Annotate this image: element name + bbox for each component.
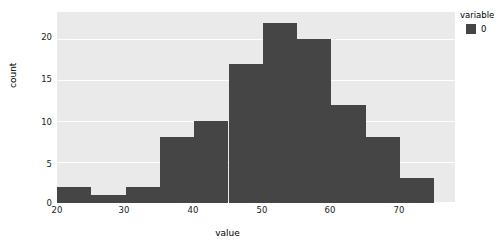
bar-bin-50-55: [263, 23, 297, 203]
bar-bin-70-75: [400, 178, 434, 203]
legend-title: variable: [460, 10, 500, 20]
x-tick-label-60: 60: [318, 205, 342, 215]
bar-bin-40-45: [194, 121, 228, 203]
y-tick-label-5: 5: [30, 159, 52, 169]
x-tick-label-50: 50: [250, 205, 274, 215]
bar-bin-20-25: [57, 187, 91, 203]
bar-bin-65-70: [366, 137, 400, 203]
y-tick-label-20: 20: [30, 32, 52, 42]
legend-swatch-icon: [466, 24, 476, 34]
x-tick-label-40: 40: [181, 205, 205, 215]
histogram-figure: count 0 5 10 15 20 20 30 40 50 60 70 val…: [0, 0, 500, 250]
bar-bin-55-60: [297, 39, 331, 203]
y-tick-label-15: 15: [30, 74, 52, 84]
bar-bin-30-35: [126, 187, 160, 203]
bar-bin-45-50: [229, 64, 263, 203]
legend-item-0[interactable]: 0: [460, 24, 500, 34]
bar-bin-35-40: [160, 137, 194, 203]
bar-bin-25-30: [91, 195, 125, 203]
legend: variable 0: [460, 10, 500, 34]
legend-item-label: 0: [481, 24, 486, 34]
x-tick-label-20: 20: [45, 205, 69, 215]
plot-panel: [57, 12, 455, 203]
gridline-y-20: [57, 39, 455, 40]
y-tick-label-10: 10: [30, 117, 52, 127]
x-tick-label-30: 30: [112, 205, 136, 215]
y-axis-title: count: [8, 63, 18, 88]
bar-bin-60-65: [331, 105, 365, 203]
x-tick-label-70: 70: [387, 205, 411, 215]
x-axis-title: value: [0, 228, 455, 238]
